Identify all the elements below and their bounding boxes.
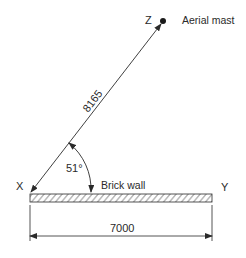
label-z: Z	[145, 14, 152, 26]
line-xz	[31, 24, 161, 192]
label-wall-length: 7000	[110, 222, 134, 234]
label-brick-wall: Brick wall	[101, 179, 145, 191]
triangulation-diagram: Z Aerial mast X Y Brick wall 51° 7000 81…	[0, 0, 246, 258]
label-angle: 51°	[66, 162, 83, 174]
brick-wall	[30, 194, 212, 202]
mast-point-z	[160, 18, 166, 24]
label-y: Y	[221, 181, 229, 193]
label-aerial-mast: Aerial mast	[182, 14, 235, 26]
label-x: X	[16, 180, 24, 192]
